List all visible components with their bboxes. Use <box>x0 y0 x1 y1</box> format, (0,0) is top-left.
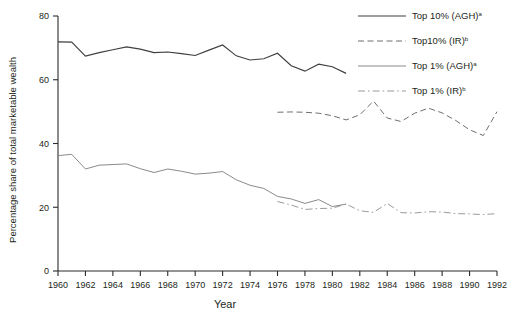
y-axis-title: Percentage share of total marketable wea… <box>7 57 18 243</box>
x-axis-title: Year <box>214 298 237 310</box>
legend-label-1: Top10% (IR)b <box>412 35 469 46</box>
tick-labels: 0204060801960196219641966196819701972197… <box>39 11 507 290</box>
x-tick-label: 1970 <box>185 280 205 290</box>
x-tick-label: 1962 <box>75 280 95 290</box>
legend-label-3: Top 1% (IR)b <box>412 85 466 96</box>
legend-label-0: Top 10% (AGH)a <box>412 10 483 21</box>
y-tick-label: 80 <box>39 11 49 21</box>
line-chart: 0204060801960196219641966196819701972197… <box>0 0 509 315</box>
x-tick-label: 1992 <box>487 280 507 290</box>
chart-figure: 0204060801960196219641966196819701972197… <box>0 0 509 315</box>
x-tick-label: 1966 <box>130 280 150 290</box>
x-tick-label: 1982 <box>350 280 370 290</box>
x-tick-label: 1990 <box>460 280 480 290</box>
x-tick-label: 1980 <box>322 280 342 290</box>
y-tick-label: 0 <box>44 266 49 276</box>
x-tick-label: 1974 <box>240 280 260 290</box>
x-tick-label: 1988 <box>432 280 452 290</box>
x-tick-label: 1986 <box>405 280 425 290</box>
series-line-top10-ir <box>278 101 498 135</box>
series-line-top-10-agh <box>58 42 346 74</box>
y-tick-label: 40 <box>39 139 49 149</box>
x-tick-label: 1984 <box>377 280 397 290</box>
x-tick-label: 1968 <box>158 280 178 290</box>
x-tick-label: 1976 <box>267 280 287 290</box>
y-tick-label: 20 <box>39 203 49 213</box>
y-tick-label: 60 <box>39 75 49 85</box>
x-tick-label: 1960 <box>48 280 68 290</box>
axes <box>53 16 497 276</box>
legend-label-2: Top 1% (AGH)a <box>412 60 477 71</box>
x-tick-label: 1964 <box>103 280 123 290</box>
chart-legend: Top 10% (AGH)aTop10% (IR)bTop 1% (AGH)aT… <box>358 10 483 96</box>
x-tick-label: 1978 <box>295 280 315 290</box>
x-tick-label: 1972 <box>213 280 233 290</box>
series-line-top-1-agh <box>58 154 346 206</box>
series-line-top-1-ir <box>278 202 498 215</box>
